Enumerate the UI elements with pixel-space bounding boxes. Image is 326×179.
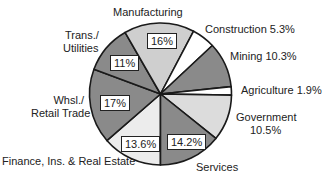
label-agriculture: Agriculture 1.9% bbox=[241, 84, 322, 97]
label-mining: Mining 10.3% bbox=[230, 50, 297, 63]
value-box-services: 14.2% bbox=[167, 134, 206, 150]
label-construction: Construction 5.3% bbox=[205, 23, 295, 36]
label-whsl-line1: Whsl./ bbox=[40, 94, 84, 107]
label-trans-line2: Utilities bbox=[63, 42, 98, 55]
value-box-manufacturing: 16% bbox=[147, 33, 177, 49]
label-whsl-line2: Retail Trade bbox=[31, 107, 90, 120]
label-government-line1: Government bbox=[236, 111, 297, 124]
label-manufacturing: Manufacturing bbox=[113, 6, 183, 19]
value-box-finance: 13.6% bbox=[121, 136, 160, 152]
label-trans-line1: Trans./ bbox=[65, 29, 99, 42]
label-government-line2: 10.5% bbox=[250, 124, 281, 137]
label-finance: Finance, Ins. & Real Estate bbox=[2, 155, 135, 168]
label-services: Services bbox=[196, 161, 238, 174]
value-box-trans: 11% bbox=[110, 55, 139, 71]
value-box-whsl: 17% bbox=[100, 95, 130, 111]
